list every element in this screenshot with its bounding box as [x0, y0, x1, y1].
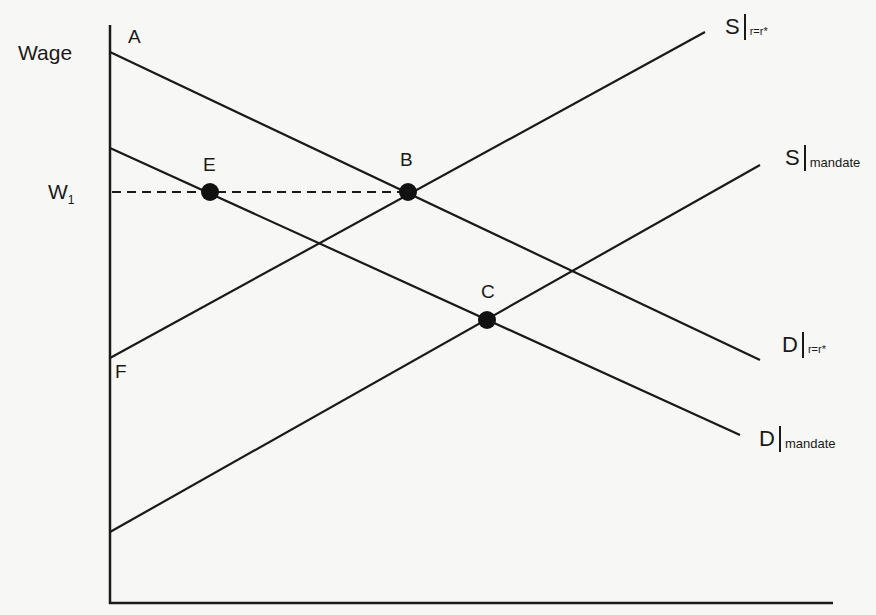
demand-r-star-condition: r=r*: [808, 344, 826, 355]
supply-curve-mandate: [110, 165, 760, 532]
point-c-dot: [478, 311, 496, 329]
point-c-label: C: [481, 282, 495, 301]
wage-w1-letter: W: [48, 180, 68, 203]
supply-r-star-label: S r=r*: [725, 14, 768, 40]
demand-r-star-name: D: [782, 334, 798, 356]
point-b-label: B: [400, 150, 413, 169]
wage-w1-label: W1: [48, 181, 75, 206]
condition-bar: [779, 426, 781, 452]
demand-mandate-name: D: [759, 428, 775, 450]
demand-mandate-condition: mandate: [785, 437, 836, 450]
condition-bar: [744, 14, 746, 40]
point-b-dot: [399, 183, 417, 201]
supply-r-star-condition: r=r*: [750, 26, 768, 37]
demand-mandate-label: D mandate: [759, 426, 835, 452]
point-a-label: A: [128, 27, 141, 46]
supply-mandate-name: S: [785, 147, 800, 169]
wage-w1-subscript: 1: [68, 193, 75, 207]
condition-bar: [804, 145, 806, 171]
point-e-dot: [201, 183, 219, 201]
supply-mandate-label: S mandate: [785, 145, 860, 171]
diagram-canvas: [0, 0, 876, 615]
condition-bar: [802, 332, 804, 358]
supply-r-star-name: S: [725, 16, 740, 38]
supply-mandate-condition: mandate: [810, 156, 861, 169]
point-e-label: E: [203, 155, 216, 174]
point-f-label: F: [115, 362, 127, 381]
demand-curve-r-star: [110, 52, 760, 360]
demand-r-star-label: D r=r*: [782, 332, 826, 358]
y-axis-label: Wage: [18, 42, 72, 63]
